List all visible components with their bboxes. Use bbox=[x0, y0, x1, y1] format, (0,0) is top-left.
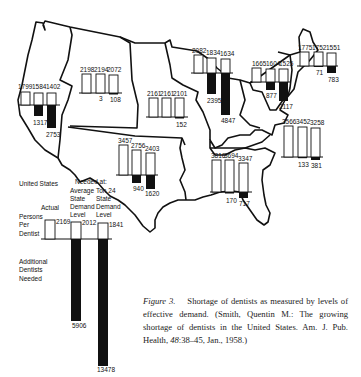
region-pacific: 1799 1584 1402 1317 2753 bbox=[18, 83, 61, 138]
svg-text:717: 717 bbox=[239, 200, 250, 207]
us-map-outline bbox=[18, 21, 318, 232]
svg-text:Persons: Persons bbox=[19, 213, 44, 220]
svg-text:783: 783 bbox=[328, 76, 339, 83]
svg-text:1834: 1834 bbox=[206, 49, 221, 56]
svg-text:Level: Level bbox=[70, 211, 86, 218]
region-mountain: 2198 2194 2072 3 108 bbox=[79, 66, 122, 103]
svg-text:1775: 1775 bbox=[298, 44, 313, 51]
figure-caption: Figure 3. Shortage of dentists as measur… bbox=[143, 295, 348, 347]
svg-text:3566: 3566 bbox=[282, 118, 297, 125]
svg-text:3: 3 bbox=[99, 95, 103, 102]
legend-united-states: United States Needed at: Average State D… bbox=[19, 178, 124, 373]
svg-text:Additional: Additional bbox=[19, 258, 48, 265]
svg-text:Needed at:: Needed at: bbox=[75, 178, 107, 185]
svg-text:Needed: Needed bbox=[19, 275, 42, 282]
figure-number: Figure 3. bbox=[143, 296, 175, 306]
svg-text:3347: 3347 bbox=[238, 155, 253, 162]
svg-text:3452: 3452 bbox=[296, 118, 311, 125]
region-west-north-central: 2161 2161 2101 152 bbox=[146, 90, 188, 128]
svg-text:1841: 1841 bbox=[109, 221, 124, 228]
svg-text:2403: 2403 bbox=[145, 145, 160, 152]
svg-text:3258: 3258 bbox=[310, 119, 325, 126]
region-south-atlantic: 3566 3452 3258 133 381 bbox=[281, 118, 325, 169]
svg-text:2082: 2082 bbox=[192, 47, 207, 54]
svg-text:108: 108 bbox=[110, 96, 121, 103]
svg-text:Demand: Demand bbox=[70, 203, 95, 210]
svg-text:Level: Level bbox=[96, 211, 112, 218]
svg-text:2117: 2117 bbox=[279, 103, 293, 110]
svg-text:United States: United States bbox=[19, 180, 59, 187]
svg-text:133: 133 bbox=[298, 161, 309, 168]
region-west-south-central: 3457 2756 2403 940 1620 bbox=[116, 137, 160, 197]
svg-text:2756: 2756 bbox=[131, 142, 146, 149]
svg-text:2198: 2198 bbox=[80, 66, 95, 73]
svg-text:71: 71 bbox=[316, 69, 324, 76]
svg-text:4847: 4847 bbox=[221, 117, 236, 124]
svg-text:1551: 1551 bbox=[326, 44, 341, 51]
svg-text:13478: 13478 bbox=[97, 366, 115, 373]
svg-text:940: 940 bbox=[133, 185, 144, 192]
svg-text:Per: Per bbox=[19, 221, 30, 228]
region-new-england: 1775 1752 1551 71 783 bbox=[297, 44, 341, 83]
svg-text:Average: Average bbox=[70, 187, 94, 195]
svg-text:1525: 1525 bbox=[279, 60, 294, 67]
svg-text:State: State bbox=[96, 195, 112, 202]
svg-text:2753: 2753 bbox=[46, 131, 61, 138]
svg-text:152: 152 bbox=[176, 121, 187, 128]
svg-text:170: 170 bbox=[226, 197, 237, 204]
svg-text:381: 381 bbox=[311, 162, 322, 169]
svg-text:2072: 2072 bbox=[107, 66, 122, 73]
svg-text:1317: 1317 bbox=[33, 119, 48, 126]
svg-text:State: State bbox=[70, 195, 86, 202]
region-east-north-central: 2082 1834 1634 2395 4847 bbox=[191, 47, 236, 124]
svg-text:1665: 1665 bbox=[252, 60, 267, 67]
svg-text:2101: 2101 bbox=[173, 90, 188, 97]
svg-text:Ton 24: Ton 24 bbox=[96, 187, 116, 194]
region-east-south-central: 3816 3694 3347 170 717 bbox=[210, 152, 253, 207]
svg-text:Dentist: Dentist bbox=[19, 230, 39, 237]
svg-text:Actual: Actual bbox=[41, 204, 60, 211]
svg-text:1584: 1584 bbox=[32, 83, 47, 90]
svg-text:Demand: Demand bbox=[96, 203, 121, 210]
svg-text:2012: 2012 bbox=[82, 219, 97, 226]
svg-text:Dentists: Dentists bbox=[19, 266, 43, 273]
svg-text:1799: 1799 bbox=[18, 83, 33, 90]
svg-text:2395: 2395 bbox=[207, 97, 222, 104]
caption-volume: 48 bbox=[170, 335, 179, 345]
svg-text:3694: 3694 bbox=[224, 152, 239, 159]
svg-text:1620: 1620 bbox=[145, 190, 160, 197]
svg-text:1402: 1402 bbox=[46, 83, 61, 90]
svg-text:877: 877 bbox=[266, 92, 277, 99]
caption-pages: :38–45, Jan., 1958.) bbox=[179, 335, 247, 345]
svg-text:1634: 1634 bbox=[220, 50, 235, 57]
svg-text:1752: 1752 bbox=[312, 44, 327, 51]
svg-text:2169: 2169 bbox=[56, 218, 71, 225]
svg-text:5906: 5906 bbox=[72, 322, 87, 329]
